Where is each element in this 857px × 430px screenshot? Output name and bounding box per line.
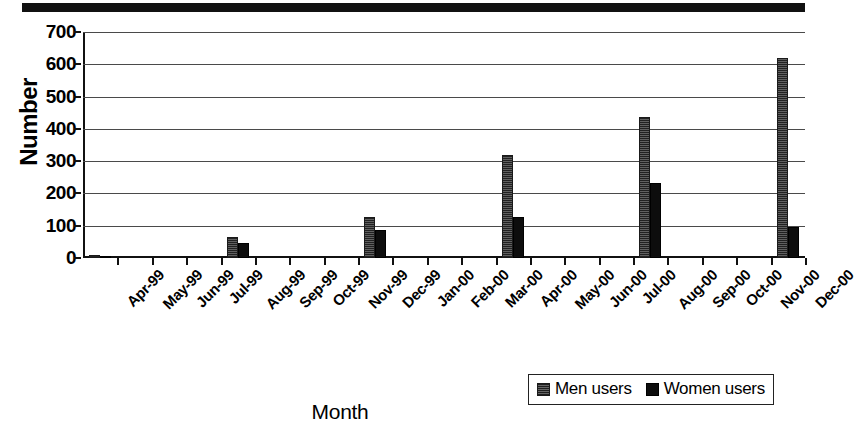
x-tick-mark: [358, 258, 360, 265]
bar-group[interactable]: [295, 32, 317, 258]
x-tick-mark: [564, 258, 566, 265]
bar-men-users[interactable]: [89, 255, 100, 258]
y-tick-mark: [74, 63, 81, 65]
x-tick-mark: [255, 258, 257, 265]
x-tick-mark: [771, 258, 773, 265]
y-tick-mark: [74, 257, 81, 259]
y-tick-mark: [74, 96, 81, 98]
bar-group[interactable]: [399, 32, 421, 258]
y-tick-mark: [74, 160, 81, 162]
x-tick-mark: [186, 258, 188, 265]
y-tick-mark: [74, 31, 81, 33]
bar-men-users[interactable]: [639, 117, 650, 258]
bar-men-users[interactable]: [502, 155, 513, 258]
x-tick-mark: [702, 258, 704, 265]
bar-women-users[interactable]: [788, 227, 799, 258]
legend-item-men: Men users: [537, 379, 632, 399]
bar-group[interactable]: [261, 32, 283, 258]
x-tick-label: Apr-99: [123, 266, 167, 310]
x-tick-mark: [117, 258, 119, 265]
legend-label-women: Women users: [664, 379, 765, 399]
bar-group[interactable]: [571, 32, 593, 258]
bar-group[interactable]: [433, 32, 455, 258]
bar-group[interactable]: [502, 32, 524, 258]
legend-item-women: Women users: [646, 379, 765, 399]
x-tick-mark: [599, 258, 601, 265]
x-tick-mark: [324, 258, 326, 265]
x-tick-label: Nov-00: [777, 266, 823, 312]
bar-group[interactable]: [227, 32, 249, 258]
y-tick-label: 200: [16, 182, 76, 204]
y-tick-label: 700: [16, 21, 76, 43]
x-axis-tick-labels: Apr-99May-99Jun-99Jul-99Aug-99Sep-99Oct-…: [83, 266, 805, 346]
bar-men-users[interactable]: [227, 237, 238, 258]
bar-group[interactable]: [89, 32, 111, 258]
y-tick-label: 100: [16, 215, 76, 237]
bar-group[interactable]: [124, 32, 146, 258]
x-tick-mark: [392, 258, 394, 265]
y-tick-mark: [74, 128, 81, 130]
bar-women-users[interactable]: [375, 230, 386, 258]
x-tick-mark: [736, 258, 738, 265]
bar-group[interactable]: [192, 32, 214, 258]
legend-swatch-women-icon: [646, 383, 659, 396]
bar-group[interactable]: [777, 32, 799, 258]
x-tick-mark: [221, 258, 223, 265]
bar-women-users[interactable]: [513, 217, 524, 258]
bar-group[interactable]: [605, 32, 627, 258]
y-tick-mark: [74, 225, 81, 227]
x-tick-mark: [496, 258, 498, 265]
bar-group[interactable]: [158, 32, 180, 258]
bar-group[interactable]: [330, 32, 352, 258]
x-tick-mark: [152, 258, 154, 265]
x-tick-mark: [530, 258, 532, 265]
bar-group[interactable]: [674, 32, 696, 258]
x-tick-mark: [667, 258, 669, 265]
bar-group[interactable]: [639, 32, 661, 258]
bar-group[interactable]: [536, 32, 558, 258]
x-tick-label: May-99: [159, 266, 205, 312]
y-tick-label: 400: [16, 118, 76, 140]
x-tick-mark: [461, 258, 463, 265]
x-tick-mark: [633, 258, 635, 265]
bar-group[interactable]: [742, 32, 764, 258]
x-tick-label: Mar-00: [502, 266, 547, 311]
x-tick-mark: [289, 258, 291, 265]
y-tick-label: 0: [16, 247, 76, 269]
bar-men-users[interactable]: [364, 217, 375, 258]
x-tick-mark: [805, 258, 807, 265]
chart-legend: Men users Women users: [528, 374, 774, 405]
bar-women-users[interactable]: [100, 256, 111, 258]
x-tick-label: May-00: [571, 266, 617, 312]
y-tick-mark: [74, 192, 81, 194]
y-axis-tick-labels: 0100200300400500600700: [12, 32, 76, 258]
bar-group[interactable]: [708, 32, 730, 258]
plot-area: [83, 32, 805, 258]
legend-label-men: Men users: [555, 379, 632, 399]
legend-swatch-men-icon: [537, 383, 550, 396]
bar-group[interactable]: [364, 32, 386, 258]
y-tick-label: 300: [16, 150, 76, 172]
x-tick-label: Feb-00: [467, 266, 512, 311]
bar-group[interactable]: [467, 32, 489, 258]
bar-men-users[interactable]: [777, 58, 788, 258]
x-tick-label: Aug-00: [674, 266, 720, 312]
bar-women-users[interactable]: [650, 183, 661, 258]
y-tick-label: 500: [16, 86, 76, 108]
scan-artifact-band: [22, 3, 805, 12]
x-tick-mark: [427, 258, 429, 265]
y-tick-label: 600: [16, 53, 76, 75]
bar-women-users[interactable]: [238, 243, 249, 258]
